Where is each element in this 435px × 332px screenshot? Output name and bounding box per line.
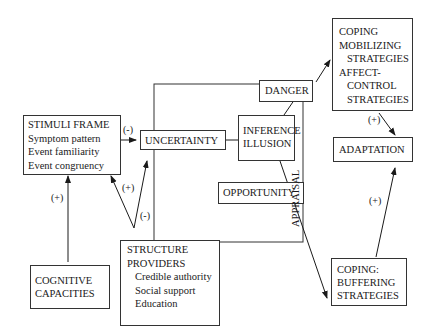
adaptation-label: ADAPTATION xyxy=(339,144,405,155)
inference-line: INFERENCE xyxy=(243,124,290,137)
danger-label: DANGER xyxy=(265,85,309,96)
edge-label-cognitive-stimuli: (+) xyxy=(51,192,63,203)
structure-line: STRUCTURE xyxy=(127,243,213,257)
mobilizing-line: MOBILIZING xyxy=(339,39,406,53)
stimuli-frame-node: STIMULI FRAME Symptom pattern Event fami… xyxy=(23,115,121,175)
coping-mobilizing-node: COPING MOBILIZING STRATEGIES AFFECT- CON… xyxy=(332,18,413,111)
providers-line: PROVIDERS xyxy=(127,257,213,271)
edge-label-structure-uncertainty: (-) xyxy=(140,210,150,221)
uncertainty-label: UNCERTAINTY xyxy=(145,135,218,146)
appraisal-label: APPRAISAL xyxy=(290,170,301,227)
control-line: CONTROL xyxy=(339,79,406,93)
stimuli-item: Event familiarity xyxy=(28,145,116,159)
buffering-line: BUFFERING xyxy=(337,276,401,289)
edge-label-buffering-adaptation: (+) xyxy=(369,195,381,206)
opportunity-label: OPPORTUNITY xyxy=(223,187,295,198)
cognitive-capacities-node: COGNITIVE CAPACITIES xyxy=(30,265,110,309)
adaptation-node: ADAPTATION xyxy=(333,137,413,162)
strategies-line: STRATEGIES xyxy=(339,52,406,66)
stimuli-frame-title: STIMULI FRAME xyxy=(28,118,116,132)
inference-illusion-node: INFERENCE ILLUSION xyxy=(238,115,295,161)
edge-label-structure-stimuli: (+) xyxy=(122,182,134,193)
strategies-line: STRATEGIES xyxy=(339,93,406,107)
provider-item: Social support xyxy=(127,284,213,298)
edge-label-stimuli-uncertainty: (-) xyxy=(123,124,133,135)
provider-item: Education xyxy=(127,297,213,311)
coping-line: COPING xyxy=(339,25,406,39)
stimuli-item: Symptom pattern xyxy=(28,132,116,146)
danger-node: DANGER xyxy=(259,80,313,102)
strategies-line: STRATEGIES xyxy=(337,289,401,302)
provider-item: Credible authority xyxy=(127,270,213,284)
coping-line: COPING: xyxy=(337,263,401,276)
edge-label-mobilizing-adaptation: (+) xyxy=(368,114,380,125)
coping-buffering-node: COPING: BUFFERING STRATEGIES xyxy=(331,258,407,306)
stimuli-item: Event congruency xyxy=(28,159,116,173)
uncertainty-node: UNCERTAINTY xyxy=(140,130,226,150)
capacities-line: CAPACITIES xyxy=(35,287,105,300)
cognitive-line: COGNITIVE xyxy=(35,274,105,287)
illusion-line: ILLUSION xyxy=(243,137,290,150)
structure-providers-node: STRUCTURE PROVIDERS Credible authority S… xyxy=(120,240,220,326)
affect-line: AFFECT- xyxy=(339,66,406,80)
